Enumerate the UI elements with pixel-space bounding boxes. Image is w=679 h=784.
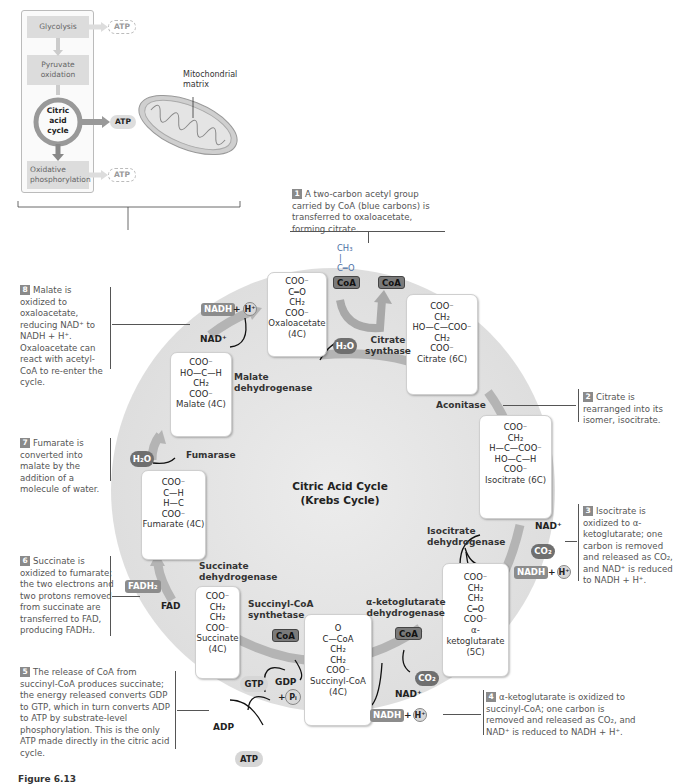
malate-box: COO⁻ HO—C—H CH₂ COO⁻ Malate (4C) [170, 352, 232, 437]
bracket-step-2 [578, 389, 579, 422]
nad-step8: NAD⁺ [200, 334, 227, 344]
nad-step3: NAD⁺ [535, 521, 562, 531]
bracket-step-7 [110, 438, 111, 481]
fad-label: FAD [161, 601, 181, 611]
gtp-star: GTP [240, 676, 268, 692]
succinate-box: COO⁻ CH₂ CH₂ COO⁻ Succinate (4C) [195, 586, 240, 679]
alpha-ketoglutarate-name: α-ketoglutarate [443, 625, 508, 647]
h-bubble-step8: H⁺ [243, 302, 257, 316]
succinyl-coa-box: O C—CoA CH₂ CH₂ COO⁻ Succinyl-CoA (4C) [304, 614, 372, 726]
nadh-pill-step4: NADH [370, 709, 404, 722]
note-step-6: 6Succinate is oxidized to fumarate; the … [20, 556, 115, 637]
fumarate-box: COO⁻ C—H H—C COO⁻ Fumarate (4C) [141, 470, 206, 560]
enzyme-citrate-synthase: Citratesynthase [363, 335, 413, 357]
co2-bubble-step3: CO₂ [531, 544, 555, 559]
bracket-step-8 [110, 287, 111, 369]
enzyme-aconitase: Aconitase [436, 400, 486, 411]
bracket-step-1-stem [368, 231, 369, 243]
bracket-step-4 [483, 690, 484, 735]
bracket-step-5-stem [177, 710, 209, 711]
succinate-name: Succinate [196, 633, 239, 644]
fadh2-pill: FADH₂ [125, 580, 161, 593]
oxaloacetate-name: Oxaloacetate [268, 318, 326, 329]
isocitrate-box: COO⁻ CH₂ H—C—COO⁻ HO—C—H COO⁻ Isocitrate… [479, 415, 552, 519]
bracket-step-6-stem [112, 596, 140, 597]
enzyme-fumarase: Fumarase [186, 450, 236, 461]
malate-name: Malate (4C) [171, 399, 231, 410]
bracket-step-8-stem [112, 324, 190, 325]
note-step-5: 5The release of CoA from succinyl-CoA pr… [20, 667, 170, 759]
bracket-step-3 [578, 504, 579, 581]
citrate-box: COO⁻ CH₂ HO—C—COO⁻ CH₂ COO⁻ Citrate (6C) [406, 294, 478, 395]
bracket-step-4-stem [443, 714, 481, 715]
released-coa-pill: CoA [378, 276, 405, 289]
note-step-1: 1A two-carbon acetyl group carried by Co… [292, 189, 432, 235]
citrate-name: Citrate (6C) [407, 354, 477, 365]
h2o-bubble-step1: H₂O [333, 338, 357, 354]
note-step-3: 3Isocitrate is oxidized to α-ketoglutara… [583, 506, 678, 587]
co2-bubble-step4: CO₂ [415, 671, 439, 686]
isocitrate-name: Isocitrate (6C) [480, 475, 551, 486]
fumarate-name: Fumarate (4C) [142, 519, 205, 530]
note-step-8: 8Malate is oxidized to oxaloacetate, red… [20, 285, 105, 389]
oxaloacetate-box: COO⁻ C═O CH₂ COO⁻ Oxaloacetate (4C) [267, 272, 327, 357]
pi-bubble: Pᵢ [285, 689, 301, 705]
enzyme-isocitrate-dehydrogenase: Isocitratedehydrogenase [427, 526, 505, 548]
bracket-step-2-stem [503, 405, 576, 406]
gdp-label: GDP [275, 677, 296, 687]
plus-step4: + [404, 710, 412, 720]
h-bubble-step3: H⁺ [557, 565, 571, 579]
nad-step4: NAD⁺ [395, 689, 422, 699]
note-step-7: 7Fumarate is converted into malate by th… [20, 438, 110, 496]
nadh-pill-step3: NADH [514, 566, 548, 579]
acetyl-coa-pill: CoA [333, 276, 360, 289]
bracket-step-5 [175, 671, 176, 749]
plus-step8: + [233, 304, 241, 314]
adp-label: ADP [213, 722, 234, 732]
h2o-bubble-step7: H₂O [130, 451, 154, 467]
alpha-ketoglutarate-box: COO⁻ CH₂ CH₂ C═O COO⁻ α-ketoglutarate (5… [442, 563, 509, 677]
figure-label: Figure 6.13 [18, 774, 76, 784]
coa-pill-step5: CoA [272, 629, 299, 642]
bracket-step-3-stem [565, 541, 577, 542]
nadh-pill-step8: NADH [201, 303, 235, 316]
succinyl-coa-name: Succinyl-CoA [305, 676, 371, 687]
coa-pill-step4: CoA [395, 627, 422, 640]
plus-step3: + [548, 567, 556, 577]
enzyme-succinyl-coa-synthetase: Succinyl-CoAsynthetase [248, 599, 314, 621]
note-step-2: 2Citrate is rearranged into its isomer, … [583, 392, 673, 427]
acetyl-group: CH₃ | C═O [337, 243, 367, 273]
enzyme-malate-dehydrogenase: Malatedehydrogenase [234, 372, 312, 394]
atp-star: ATP [235, 751, 263, 767]
bracket-step-6 [110, 556, 111, 636]
enzyme-succinate-dehydrogenase: Succinatedehydrogenase [199, 561, 277, 583]
h-bubble-step4: H⁺ [413, 708, 427, 722]
cycle-title: Citric Acid Cycle (Krebs Cycle) [285, 479, 395, 507]
enzyme-akg-dehydrogenase: α-ketoglutaratedehydrogenase [366, 597, 445, 619]
note-step-4: 4α-ketoglutarate is oxidized to succinyl… [486, 692, 636, 738]
